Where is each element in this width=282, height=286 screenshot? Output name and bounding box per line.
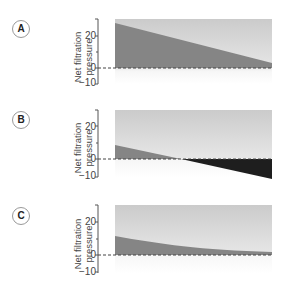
chart-plot-a [0,0,282,95]
panel-c: C Net filtration pressure 20 0 −10 [0,187,282,282]
panel-b: B Net filtration pressure 20 0 −10 [0,91,282,186]
chart-plot-b [0,91,282,186]
chart-plot-c [0,187,282,286]
panel-a: A Net filtration pressure 20 0 −10 [0,0,282,95]
